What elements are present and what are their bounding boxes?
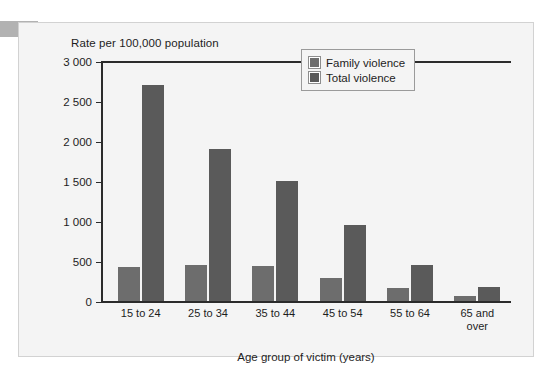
legend-swatch-family-violence [309, 57, 320, 68]
bar-family-violence[interactable] [185, 265, 207, 301]
bar-total-violence[interactable] [478, 287, 500, 301]
chart-legend: Family violence Total violence [301, 49, 415, 91]
y-tick-mark [96, 262, 101, 263]
bar-group: 45 to 54 [309, 61, 376, 301]
bar-group: 55 to 64 [376, 61, 443, 301]
x-tick-label: 45 to 54 [309, 307, 376, 320]
bar-total-violence[interactable] [209, 149, 231, 301]
y-tick-mark [96, 222, 101, 223]
y-tick-mark [96, 302, 101, 303]
y-tick-label: 500 [73, 256, 92, 268]
x-tick-label: 35 to 44 [242, 307, 309, 320]
y-tick-label: 3 000 [63, 56, 92, 68]
y-tick-mark [96, 102, 101, 103]
x-axis-title: Age group of victim (years) [101, 351, 511, 363]
bar-group: 25 to 34 [174, 61, 241, 301]
y-tick-mark [96, 62, 101, 63]
legend-swatch-total-violence [309, 72, 320, 83]
y-tick-label: 1 500 [63, 176, 92, 188]
legend-item-total-violence[interactable]: Total violence [309, 70, 405, 85]
bar-group: 35 to 44 [242, 61, 309, 301]
x-tick-label: 55 to 64 [376, 307, 443, 320]
y-tick-mark [96, 142, 101, 143]
chart-card: Rate per 100,000 population 05001 0001 5… [18, 22, 534, 357]
y-tick-mark [96, 182, 101, 183]
y-tick-label: 1 000 [63, 216, 92, 228]
bar-total-violence[interactable] [344, 225, 366, 301]
bar-family-violence[interactable] [118, 267, 140, 301]
bar-family-violence[interactable] [252, 266, 274, 301]
y-tick-label: 2 000 [63, 136, 92, 148]
bar-total-violence[interactable] [276, 181, 298, 301]
plot-area: 05001 0001 5002 0002 5003 000 15 to 2425… [101, 61, 511, 303]
y-tick-label: 0 [86, 296, 92, 308]
bar-total-violence[interactable] [411, 265, 433, 301]
x-tick-label: 25 to 34 [174, 307, 241, 320]
bar-group: 65 and over [444, 61, 511, 301]
bar-total-violence[interactable] [142, 85, 164, 301]
y-axis-line [101, 61, 103, 303]
bar-family-violence[interactable] [387, 288, 409, 301]
x-tick-label: 15 to 24 [107, 307, 174, 320]
x-axis-line [101, 301, 511, 303]
legend-label-total-violence: Total violence [326, 72, 396, 84]
legend-label-family-violence: Family violence [326, 57, 405, 69]
bar-family-violence[interactable] [320, 278, 342, 301]
y-axis-title: Rate per 100,000 population [71, 37, 219, 49]
x-tick-label: 65 and over [444, 307, 511, 332]
y-tick-label: 2 500 [63, 96, 92, 108]
bar-group: 15 to 24 [107, 61, 174, 301]
legend-item-family-violence[interactable]: Family violence [309, 55, 405, 70]
bar-family-violence[interactable] [454, 296, 476, 301]
